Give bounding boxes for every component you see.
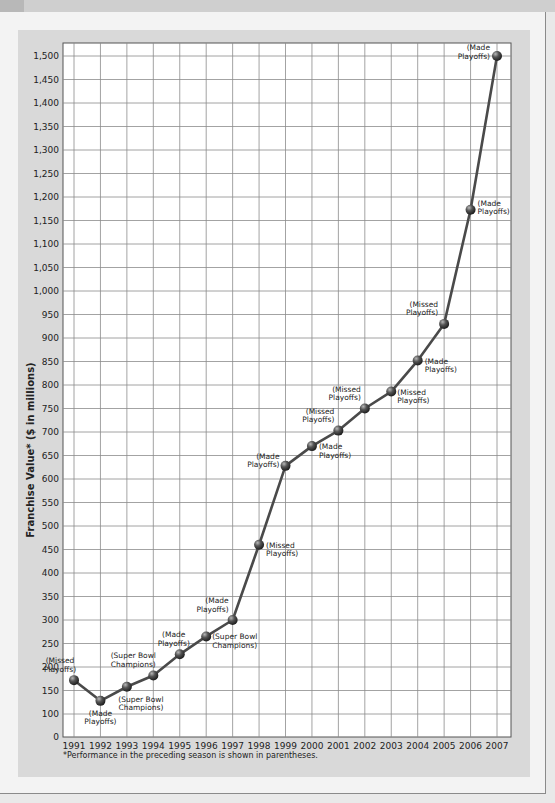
data-point-marker bbox=[333, 426, 343, 436]
footnote: *Performance in the preceding season is … bbox=[63, 751, 318, 760]
y-tick-label: 300 bbox=[42, 615, 59, 625]
data-point-marker bbox=[281, 461, 291, 471]
x-tick-label: 1998 bbox=[248, 741, 271, 751]
y-tick-label: 0 bbox=[53, 732, 59, 742]
y-tick-label: 900 bbox=[42, 333, 59, 343]
x-tick-label: 2001 bbox=[327, 741, 350, 751]
x-tick-label: 1995 bbox=[168, 741, 191, 751]
x-tick-label: 2005 bbox=[433, 741, 456, 751]
data-point-marker bbox=[201, 631, 211, 641]
data-point-marker bbox=[413, 356, 423, 366]
y-tick-label: 1,100 bbox=[33, 239, 59, 249]
x-tick-label: 2006 bbox=[459, 741, 482, 751]
y-tick-label: 750 bbox=[42, 404, 59, 414]
x-tick-label: 1996 bbox=[195, 741, 218, 751]
x-tick-label: 1991 bbox=[63, 741, 86, 751]
y-tick-label: 700 bbox=[42, 427, 59, 437]
data-annotation: (MissedPlayoffs) bbox=[406, 300, 438, 318]
y-tick-label: 150 bbox=[42, 686, 59, 696]
data-point-marker bbox=[466, 205, 476, 215]
data-point-marker bbox=[307, 441, 317, 451]
x-tick-label: 1999 bbox=[274, 741, 297, 751]
data-annotation: (MissedPlayoffs) bbox=[302, 407, 334, 425]
x-tick-label: 2004 bbox=[406, 741, 429, 751]
y-tick-label: 1,450 bbox=[33, 75, 59, 85]
x-tick-label: 1993 bbox=[115, 741, 138, 751]
data-point-marker bbox=[360, 404, 370, 414]
x-tick-label: 1992 bbox=[89, 741, 112, 751]
y-tick-label: 100 bbox=[42, 709, 59, 719]
data-annotation: (Super BowlChampions) bbox=[212, 632, 257, 650]
data-point-marker bbox=[386, 387, 396, 397]
data-annotation: (MadePlayoffs) bbox=[158, 630, 190, 648]
y-tick-label: 1,000 bbox=[33, 286, 59, 296]
y-tick-label: 950 bbox=[42, 310, 59, 320]
data-annotation: (MissedPlayoffs) bbox=[266, 541, 298, 559]
data-point-marker bbox=[439, 319, 449, 329]
x-tick-label: 1997 bbox=[221, 741, 244, 751]
data-point-marker bbox=[69, 675, 79, 685]
data-point-marker bbox=[95, 696, 105, 706]
data-annotation: (Super BowlChampions) bbox=[118, 695, 163, 713]
y-tick-label: 1,200 bbox=[33, 192, 59, 202]
data-annotation: (Super BowlChampions) bbox=[111, 651, 156, 669]
x-tick-label: 2007 bbox=[486, 741, 509, 751]
x-tick-label: 2003 bbox=[380, 741, 403, 751]
y-axis-title-text: Franchise Value* ($ in millions) bbox=[25, 362, 36, 537]
data-annotation: (MissedPlayoffs) bbox=[397, 388, 429, 406]
data-point-marker bbox=[228, 615, 238, 625]
y-tick-label: 1,250 bbox=[33, 169, 59, 179]
x-tick-label: 2000 bbox=[300, 741, 323, 751]
y-tick-label: 400 bbox=[42, 568, 59, 578]
data-point-marker bbox=[148, 670, 158, 680]
line-chart: 0100150200250300350400450500550600650700… bbox=[0, 0, 555, 803]
y-tick-label: 1,400 bbox=[33, 98, 59, 108]
y-axis-title: Franchise Value* ($ in millions) bbox=[22, 330, 38, 570]
y-tick-label: 500 bbox=[42, 521, 59, 531]
y-tick-label: 1,300 bbox=[33, 145, 59, 155]
y-tick-label: 850 bbox=[42, 357, 59, 367]
data-point-marker bbox=[254, 540, 264, 550]
data-point-marker bbox=[175, 649, 185, 659]
x-tick-label: 2002 bbox=[353, 741, 376, 751]
y-tick-label: 350 bbox=[42, 592, 59, 602]
data-annotation: (MadePlayoffs) bbox=[84, 709, 116, 727]
y-tick-label: 250 bbox=[42, 639, 59, 649]
x-tick-label: 1994 bbox=[142, 741, 165, 751]
data-point-marker bbox=[492, 51, 502, 61]
y-tick-label: 650 bbox=[42, 451, 59, 461]
y-tick-label: 800 bbox=[42, 380, 59, 390]
data-annotation: (MissedPlayoffs) bbox=[329, 385, 361, 403]
y-tick-label: 1,050 bbox=[33, 263, 59, 273]
data-point-marker bbox=[122, 682, 132, 692]
y-tick-label: 450 bbox=[42, 545, 59, 555]
y-tick-label: 600 bbox=[42, 474, 59, 484]
y-tick-label: 1,500 bbox=[33, 51, 59, 61]
y-tick-label: 550 bbox=[42, 498, 59, 508]
data-annotation: (MissedPlayoffs) bbox=[44, 656, 76, 674]
y-tick-label: 1,350 bbox=[33, 122, 59, 132]
y-tick-label: 1,150 bbox=[33, 216, 59, 226]
